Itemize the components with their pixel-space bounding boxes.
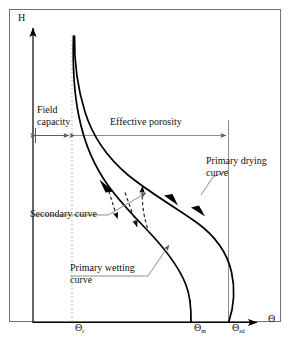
effective-porosity-label: Effective porosity [110, 116, 182, 127]
secondary-curve-label: Secondary curve [30, 208, 97, 219]
wetting-curve-direction-arrowhead [100, 180, 114, 193]
figure-canvas [0, 0, 290, 351]
x-axis-label: Θ [268, 313, 275, 324]
secondary-scanning-curve-3 [142, 187, 147, 229]
primary-wetting-label-line1: Primary wetting [70, 262, 135, 273]
theta-sd-subscript: sd [239, 328, 244, 334]
theta-m-subscript: m [201, 328, 206, 334]
y-axis-label: H [18, 12, 25, 23]
x-tick-label-theta-r: Θr [65, 311, 84, 345]
primary-wetting-label-line2: curve [70, 274, 92, 285]
drying-curve-direction-arrowhead-1 [164, 194, 178, 206]
primary-drying-curve [74, 36, 233, 322]
x-tick-label-theta-m: Θm [184, 311, 206, 345]
primary-drying-label-line1: Primary drying [206, 155, 267, 166]
x-tick-label-theta-sd: Θsd [222, 311, 245, 345]
theta-r-subscript: r [82, 328, 84, 334]
field-capacity-label-line2: capacity [37, 116, 70, 127]
field-capacity-label-line1: Field [37, 104, 58, 115]
primary-drying-label-line2: curve [206, 167, 228, 178]
secondary-scanning-curve-2 [125, 193, 137, 227]
drying-curve-direction-arrowhead-2 [191, 206, 205, 217]
hysteresis-figure: H Θ Field capacity Effective porosity Pr… [0, 0, 290, 351]
